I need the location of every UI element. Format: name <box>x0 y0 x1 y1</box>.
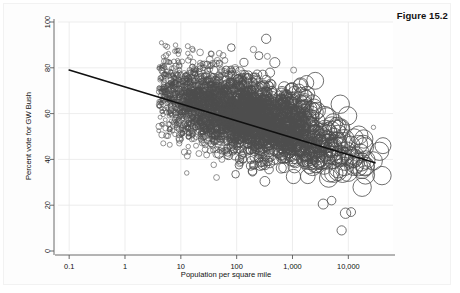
y-tick-label: 20 <box>43 201 52 209</box>
y-axis-title: Percent vote for GW Bush <box>24 92 33 180</box>
x-tick-label: 1,000 <box>283 262 302 271</box>
y-tick-label: 40 <box>43 155 52 163</box>
y-tick-label: 100 <box>43 16 52 28</box>
x-tick-label: 1 <box>123 262 127 271</box>
y-tick-label: 80 <box>43 64 52 72</box>
y-tick-label: 0 <box>43 249 52 253</box>
x-tick-label: 10,000 <box>337 262 360 271</box>
x-tick-label: 0.1 <box>64 262 74 271</box>
y-tick-label: 60 <box>43 109 52 117</box>
chart-svg: 0.11101001,00010,000020406080100 Populat… <box>0 0 460 293</box>
scatter-plot: 0.11101001,00010,000020406080100 Populat… <box>0 0 460 293</box>
figure-root: Figure 15.2 0.11101001,00010,00002040608… <box>0 0 460 293</box>
x-axis-title: Population per square mile <box>181 270 271 279</box>
